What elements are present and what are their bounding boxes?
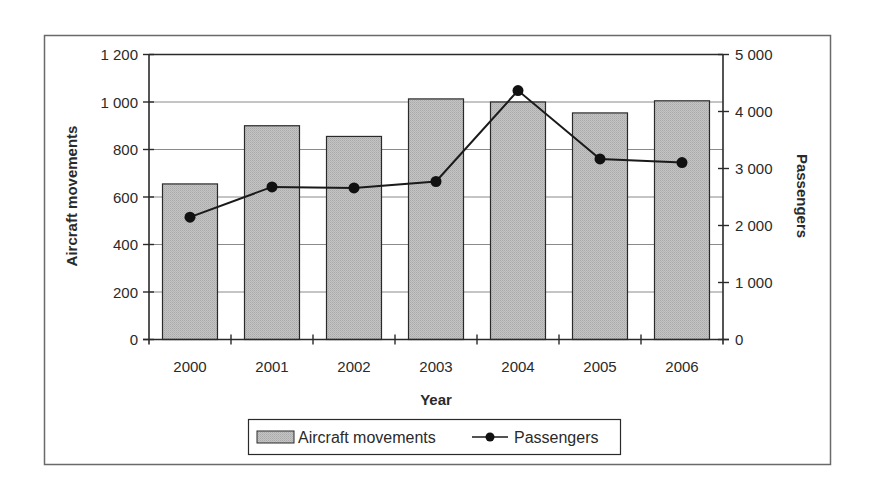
passengers-point-2005 [595, 153, 606, 164]
y-tick-label: 400 [113, 236, 138, 253]
y-tick-label: 0 [130, 331, 138, 348]
y-tick-label: 800 [113, 141, 138, 158]
x-tick-label: 2000 [173, 358, 206, 375]
x-tick-label: 2004 [501, 358, 534, 375]
y-axis-title: Aircraft movements [63, 126, 80, 267]
bar-2006 [655, 101, 710, 340]
y2-tick-label: 1 000 [735, 274, 773, 291]
x-axis-title: Year [420, 391, 452, 408]
x-tick-label: 2006 [665, 358, 698, 375]
y2-tick-label: 0 [735, 331, 743, 348]
bar-2005 [573, 113, 628, 340]
passengers-point-2006 [677, 157, 688, 168]
passengers-point-2000 [185, 212, 196, 223]
bar-2001 [245, 126, 300, 340]
y-tick-label: 600 [113, 189, 138, 206]
y2-tick-label: 2 000 [735, 217, 773, 234]
y2-tick-label: 3 000 [735, 160, 773, 177]
y-tick-label: 1 000 [100, 94, 138, 111]
bar-2000 [163, 184, 218, 340]
passengers-point-2002 [349, 182, 360, 193]
legend: Aircraft movements Passengers [249, 420, 621, 455]
legend-label-passengers: Passengers [514, 429, 599, 446]
passengers-point-2001 [267, 181, 278, 192]
passengers-point-2003 [431, 176, 442, 187]
y2-tick-label: 4 000 [735, 103, 773, 120]
x-tick-label: 2001 [255, 358, 288, 375]
bar-2003 [409, 99, 464, 340]
bar-swatch-icon [257, 431, 294, 443]
chart: 02004006008001 0001 20001 0002 0003 0004… [0, 0, 875, 491]
bar-2002 [327, 136, 382, 339]
x-tick-label: 2003 [419, 358, 452, 375]
legend-label-aircraft-movements: Aircraft movements [298, 429, 436, 446]
y-tick-label: 1 200 [100, 46, 138, 63]
y-tick-label: 200 [113, 284, 138, 301]
y2-axis-title: Passengers [794, 154, 811, 238]
x-tick-label: 2002 [337, 358, 370, 375]
x-tick-label: 2005 [583, 358, 616, 375]
passengers-point-2004 [513, 85, 524, 96]
bar-series [163, 99, 710, 340]
y2-tick-label: 5 000 [735, 46, 773, 63]
bar-2004 [491, 102, 546, 340]
